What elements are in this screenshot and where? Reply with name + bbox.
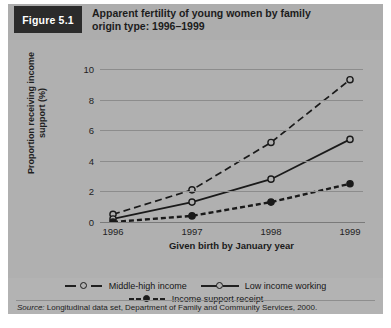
- legend-label-income-support-receipt: Income support receipt: [172, 294, 264, 304]
- data-point-marker: [268, 139, 274, 145]
- heavy-dashed-line-marker-icon: [128, 294, 168, 303]
- source-prefix: Source:: [17, 303, 45, 312]
- footer-divider: [16, 300, 375, 301]
- legend-item-low-income-working[interactable]: Low income working: [201, 281, 327, 291]
- legend-item-middle-high-income[interactable]: Middle-high income: [65, 281, 187, 291]
- y-tick-label: 6: [66, 125, 94, 136]
- y-axis-ticks: 0246810: [62, 69, 94, 222]
- gridline: [100, 100, 363, 101]
- x-axis-line: [100, 222, 365, 223]
- figure-header: Figure 5.1 Apparent fertility of young w…: [8, 4, 383, 40]
- data-point-marker: [347, 181, 353, 187]
- chart-svg: [100, 69, 363, 222]
- y-tick-label: 2: [66, 186, 94, 197]
- data-point-marker: [189, 213, 195, 219]
- dashed-line-marker-icon: [65, 281, 105, 290]
- x-tick-label: 1996: [102, 226, 123, 237]
- y-tick-label: 4: [66, 155, 94, 166]
- figure-container: Figure 5.1 Apparent fertility of young w…: [8, 4, 383, 314]
- chart-plot-panel: Proportion receiving income support (%) …: [8, 40, 383, 278]
- chart-legend: Middle-high income Low income working: [8, 279, 383, 305]
- series-line-1: [113, 139, 350, 219]
- legend-row-primary: Middle-high income Low income working: [8, 279, 383, 292]
- source-text: Longitudinal data set, Department of Fam…: [45, 303, 318, 312]
- data-point-marker: [268, 176, 274, 182]
- figure-number-badge: Figure 5.1: [14, 6, 82, 33]
- legend-label-middle-high-income: Middle-high income: [109, 281, 187, 291]
- solid-line-marker-icon: [201, 281, 241, 290]
- legend-label-low-income-working: Low income working: [245, 281, 327, 291]
- data-point-marker: [268, 199, 274, 205]
- plot-area: [100, 69, 363, 222]
- y-axis-label: Proportion receiving income support (%): [26, 38, 48, 188]
- gridline: [100, 130, 363, 131]
- data-point-marker: [347, 136, 353, 142]
- data-point-marker: [347, 77, 353, 83]
- x-tick-label: 1999: [339, 226, 360, 237]
- source-note: Source: Longitudinal data set, Departmen…: [17, 303, 317, 312]
- data-point-marker: [189, 199, 195, 205]
- y-tick-label: 10: [66, 64, 94, 75]
- legend-item-income-support-receipt[interactable]: Income support receipt: [128, 294, 264, 304]
- x-axis-ticks: 1996199719981999: [100, 226, 363, 240]
- figure-title: Apparent fertility of young women by fam…: [92, 7, 377, 32]
- x-tick-label: 1997: [181, 226, 202, 237]
- y-tick-label: 8: [66, 94, 94, 105]
- gridline: [100, 69, 363, 70]
- x-axis-label: Given birth by January year: [100, 240, 363, 251]
- y-tick-label: 0: [66, 217, 94, 228]
- gridline: [100, 191, 363, 192]
- x-tick-label: 1998: [260, 226, 281, 237]
- gridline: [100, 161, 363, 162]
